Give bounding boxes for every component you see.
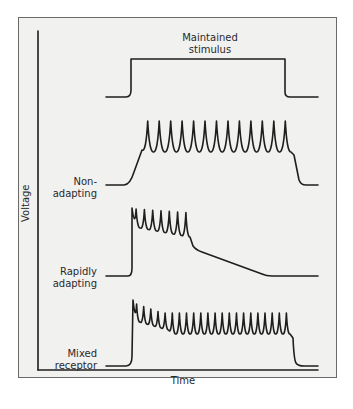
- mixed-receptor-label-line1: Mixed: [40, 348, 97, 360]
- mixed-receptor-label: Mixed receptor: [40, 348, 97, 372]
- non-adapting-label-line1: Non-: [40, 176, 97, 188]
- y-axis-label: Voltage: [20, 184, 31, 222]
- stimulus-trace: [106, 59, 318, 97]
- mixed-receptor-label-line2: receptor: [40, 360, 97, 372]
- non-adapting-label: Non- adapting: [40, 176, 97, 200]
- rapidly-adapting-trace: [106, 208, 318, 276]
- rapidly-adapting-label: Rapidly adapting: [40, 266, 97, 290]
- x-axis-label: Time: [143, 375, 223, 387]
- mixed-receptor-trace: [106, 300, 318, 366]
- stimulus-label-line1: Maintained: [150, 32, 270, 44]
- rapidly-adapting-label-line1: Rapidly: [40, 266, 97, 278]
- rapidly-adapting-label-line2: adapting: [40, 278, 97, 290]
- non-adapting-label-line2: adapting: [40, 188, 97, 200]
- non-adapting-trace: [106, 121, 318, 185]
- stimulus-label: Maintained stimulus: [150, 32, 270, 56]
- stimulus-label-line2: stimulus: [150, 44, 270, 56]
